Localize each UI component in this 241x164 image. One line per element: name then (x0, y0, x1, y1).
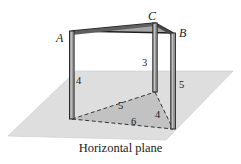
measure-label-post-a: 4 (76, 76, 81, 87)
post-a (70, 31, 75, 119)
measure-label-base-front: 6 (131, 117, 136, 128)
measure-label-base-left: 5 (118, 101, 123, 112)
measure-label-post-c: 3 (142, 58, 147, 69)
vertex-label-b: B (179, 27, 186, 39)
post-c (153, 23, 157, 92)
measure-label-post-b: 5 (179, 80, 184, 91)
triangular-prism-diagram (0, 0, 241, 164)
measure-label-base-right: 4 (155, 110, 160, 121)
vertex-label-c: C (148, 10, 156, 22)
figure-caption: Horizontal plane (79, 141, 163, 156)
post-b (171, 33, 176, 129)
vertex-label-a: A (56, 32, 63, 44)
